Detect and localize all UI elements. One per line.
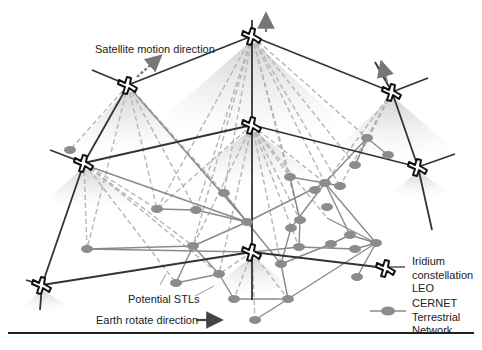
network-diagram <box>0 0 482 350</box>
legend-line: CERNET <box>412 297 460 311</box>
legend-line: Terrestrial <box>412 311 460 325</box>
legend-line: LEO <box>412 282 473 296</box>
legend-line: Iridium <box>412 255 473 269</box>
legend-ground-node-icon <box>370 307 406 316</box>
potential-stls-label: Potential STLs <box>128 293 200 306</box>
earth-rotate-label: Earth rotate direction <box>96 314 198 327</box>
satellite-motion-label: Satellite motion direction <box>95 43 215 56</box>
legend-line: Network <box>412 324 460 338</box>
legend-satellite-icon <box>372 260 405 277</box>
legend-line: constellation <box>412 269 473 283</box>
bottom-rule <box>8 332 474 334</box>
legend-item-iridium: Iridium constellation LEO <box>412 255 473 296</box>
